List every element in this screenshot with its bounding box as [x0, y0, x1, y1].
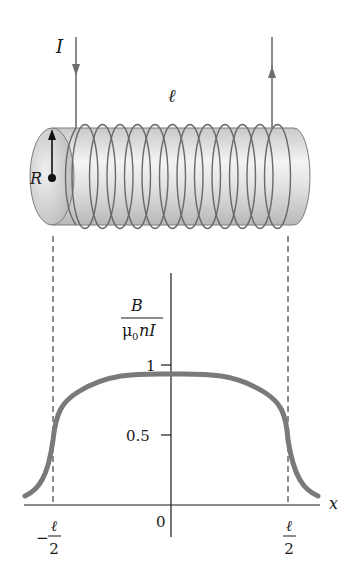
xtick-right-numerator: ℓ — [286, 517, 292, 535]
minus-sign: − — [36, 529, 49, 547]
ylabel-numerator: B — [130, 296, 143, 315]
x-axis-label: x — [329, 494, 338, 513]
solenoid-field-figure: I ℓ R 1 0.5 B μ — [0, 0, 362, 580]
ylabel-denominator-mu: μ — [122, 321, 132, 340]
xtick-left-label: − ℓ 2 — [36, 517, 61, 558]
xtick-left-denominator: 2 — [49, 540, 59, 558]
length-label: ℓ — [168, 85, 176, 106]
xtick-zero-label: 0 — [156, 513, 166, 531]
xtick-right-denominator: 2 — [284, 540, 294, 558]
current-label: I — [55, 36, 64, 57]
y-axis-label: B μ 0 nI — [121, 296, 163, 342]
center-dot-icon — [48, 174, 56, 182]
current-in-wire — [72, 37, 80, 128]
ytick-05-label: 0.5 — [126, 427, 150, 445]
current-out-wire — [268, 37, 276, 128]
arrow-down-icon — [72, 64, 80, 76]
ylabel-denominator-sub: 0 — [132, 331, 138, 342]
ylabel-denominator-rest: nI — [139, 321, 156, 340]
arrow-up-icon — [268, 66, 276, 78]
xtick-right-label: ℓ 2 — [283, 517, 296, 558]
xtick-left-numerator: ℓ — [51, 517, 57, 535]
radius-label: R — [29, 169, 42, 188]
